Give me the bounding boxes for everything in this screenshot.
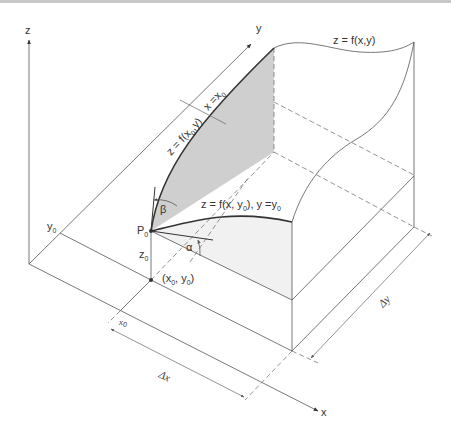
- beta-label: β: [160, 203, 166, 215]
- y0-slice-shading: [151, 216, 292, 300]
- alpha-label: α: [186, 241, 193, 253]
- y0-ground-line-a: [60, 233, 151, 280]
- delta-y-dim-line: [311, 233, 430, 358]
- y0-tick-label: y0: [47, 220, 57, 234]
- svg-text:Δy: Δy: [375, 293, 392, 310]
- y-axis-label: y: [256, 22, 262, 34]
- delta-y-ext-top: [414, 227, 432, 236]
- z0-label: z0: [139, 248, 149, 262]
- back-dash-2: [274, 102, 414, 175]
- back-dash-3: [274, 152, 414, 227]
- p0-point: [149, 229, 153, 233]
- svg-text:Δx: Δx: [156, 368, 172, 384]
- y0-ground-line-b: [151, 280, 292, 351]
- ground-point-label: (x0, y0): [162, 272, 194, 286]
- box-front-bottom-edge: [292, 227, 414, 351]
- delta-y-label: Δy: [375, 293, 392, 310]
- delta-x-label: Δx: [156, 368, 172, 384]
- partial-derivative-diagram: z y x z = f(x,y) z = f(x0,y) x =x0 z = f…: [0, 0, 451, 436]
- delta-y-ext-bottom: [292, 351, 318, 363]
- delta-x-ext-right: [245, 351, 292, 400]
- x0-ground-line: [120, 280, 151, 311]
- p0-label: P0: [137, 224, 148, 238]
- z-axis-label: z: [25, 24, 31, 36]
- ground-point: [149, 278, 153, 282]
- surface-label: z = f(x,y): [333, 34, 375, 46]
- curve-y0-label: z = f(x, y0), y =y0: [201, 198, 281, 212]
- x0-tick-label: x0: [118, 317, 127, 328]
- x-axis-label: x: [321, 406, 327, 418]
